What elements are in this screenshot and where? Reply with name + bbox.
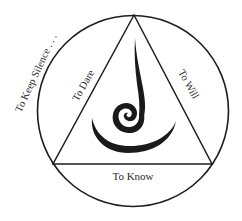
label-to-know: To Know: [112, 170, 153, 182]
label-to-dare: To Dare: [70, 68, 96, 103]
label-to-will: To Will: [176, 68, 201, 101]
label-to-keep-silence: To Keep Silence . . .: [13, 32, 59, 114]
spiral-flame-icon: [92, 38, 176, 153]
witches-pyramid-diagram: To Keep Silence . . . To Dare To Will To…: [0, 0, 242, 221]
